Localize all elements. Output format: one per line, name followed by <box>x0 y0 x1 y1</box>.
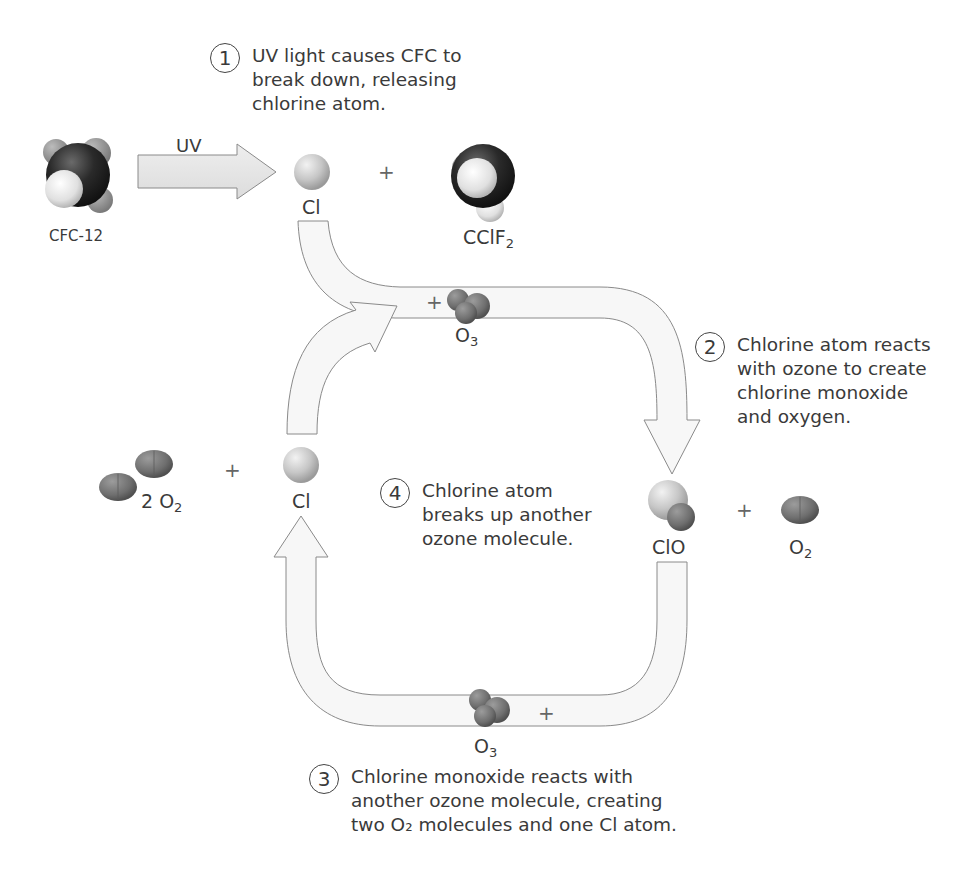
clo-label: ClO <box>652 538 686 557</box>
step-1-text: UV light causes CFC to break down, relea… <box>252 44 462 116</box>
cl-left-label: Cl <box>292 492 311 511</box>
step-4-line-1: Chlorine atom <box>422 479 592 503</box>
cclf2-label-text: CClF <box>463 226 506 248</box>
step-2: 2 Chlorine atom reacts with ozone to cre… <box>695 333 931 429</box>
step-1-line-3: chlorine atom. <box>252 92 462 116</box>
o2-right-label: O2 <box>789 538 812 560</box>
step-4-text: Chlorine atom breaks up another ozone mo… <box>422 479 592 551</box>
o2-molecule-right-icon <box>781 496 819 524</box>
clo-molecule-icon <box>648 480 695 531</box>
cfc12-molecule-icon <box>43 138 113 213</box>
step-2-number-badge: 2 <box>695 332 725 362</box>
plus-sign-o3-bottom: + <box>538 703 555 723</box>
two-o2-label-text: 2 O <box>141 490 174 512</box>
step-1-line-2: break down, releasing <box>252 68 462 92</box>
cl-atom-top-icon <box>294 154 330 190</box>
o3-bottom-label: O3 <box>474 737 497 759</box>
o3-top-label-text: O <box>455 324 470 346</box>
plus-sign-clo-o2: + <box>736 500 753 520</box>
cclf2-label: CClF2 <box>463 228 514 250</box>
cycle-arrow-left-up <box>287 302 397 434</box>
two-o2-label-sub: 2 <box>174 500 182 515</box>
o3-top-label-sub: 3 <box>470 334 478 349</box>
uv-arrow <box>138 144 276 199</box>
plus-sign-o3-top: + <box>426 292 443 312</box>
cfc12-label-text: CFC-12 <box>49 227 103 245</box>
o2-right-label-sub: 2 <box>804 546 812 561</box>
cclf2-label-sub: 2 <box>506 236 514 251</box>
o2-right-label-text: O <box>789 536 804 558</box>
step-3-line-2: another ozone molecule, creating <box>351 789 677 813</box>
step-3-line-3: two O₂ molecules and one Cl atom. <box>351 813 677 837</box>
cl-atom-left-icon <box>283 447 319 483</box>
uv-label: UV <box>176 137 202 155</box>
step-3-number-badge: 3 <box>309 764 339 794</box>
cclf2-molecule-icon <box>451 144 515 222</box>
step-3-text: Chlorine monoxide reacts with another oz… <box>351 765 677 837</box>
step-2-text: Chlorine atom reacts with ozone to creat… <box>737 333 931 429</box>
step-2-line-2: with ozone to create <box>737 357 931 381</box>
step-3: 3 Chlorine monoxide reacts with another … <box>309 765 677 837</box>
step-1-number-badge: 1 <box>210 43 240 73</box>
step-1: 1 UV light causes CFC to break down, rel… <box>210 44 462 116</box>
o3-bottom-label-text: O <box>474 735 489 757</box>
step-2-line-4: and oxygen. <box>737 405 931 429</box>
step-3-line-1: Chlorine monoxide reacts with <box>351 765 677 789</box>
step-2-line-1: Chlorine atom reacts <box>737 333 931 357</box>
step-4-line-2: breaks up another <box>422 503 592 527</box>
two-o2-label: 2 O2 <box>141 492 182 514</box>
o3-top-label: O3 <box>455 326 478 348</box>
step-4-number-badge: 4 <box>380 478 410 508</box>
step-4: 4 Chlorine atom breaks up another ozone … <box>380 479 592 551</box>
cl-top-label: Cl <box>302 198 321 217</box>
step-2-line-3: chlorine monoxide <box>737 381 931 405</box>
cfc12-label: CFC-12 <box>49 225 103 244</box>
plus-sign-left: + <box>224 460 241 480</box>
step-4-line-3: ozone molecule. <box>422 527 592 551</box>
plus-sign-top: + <box>378 162 395 182</box>
o3-bottom-label-sub: 3 <box>489 745 497 760</box>
step-1-line-1: UV light causes CFC to <box>252 44 462 68</box>
